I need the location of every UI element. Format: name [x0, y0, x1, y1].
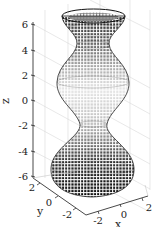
z-tick-neg6: -6	[18, 171, 28, 182]
x-tick-neg2: -2	[93, 215, 103, 226]
x-tick-0: 0	[121, 209, 127, 220]
y-axis-label: y	[36, 205, 44, 218]
y-tick-0: 0	[46, 197, 52, 208]
z-tick-neg4: -4	[18, 146, 28, 157]
z-axis-label: z	[0, 98, 12, 104]
x-axis: -2 0 2 x	[93, 198, 152, 227]
y-tick-neg2: -2	[62, 209, 72, 220]
surface-plot: 6 4 2 0 -2 -4 -6 z 2 0 -2 y -2	[0, 0, 159, 227]
z-tick-0: 0	[22, 95, 28, 106]
z-tick-4: 4	[22, 45, 28, 56]
z-tick-6: 6	[22, 19, 28, 30]
z-tick-2: 2	[22, 70, 28, 81]
z-tick-neg2: -2	[18, 120, 28, 131]
x-axis-label: x	[115, 218, 122, 227]
z-axis: 6 4 2 0 -2 -4 -6 z	[0, 19, 35, 182]
x-tick-2: 2	[146, 202, 152, 213]
y-tick-2: 2	[29, 182, 35, 193]
